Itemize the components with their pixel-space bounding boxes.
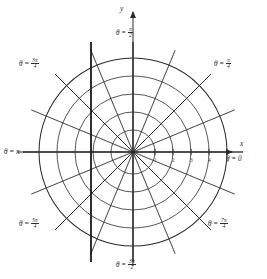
fraction-pi-2: π2 bbox=[128, 27, 133, 39]
theta-label-7pi-4-text: θ = bbox=[208, 220, 220, 228]
fraction-denominator: 4 bbox=[226, 63, 231, 70]
theta-label-pi-2-text: θ = bbox=[116, 29, 128, 37]
theta-label-pi-text: θ = bbox=[4, 148, 16, 156]
theta-label-pi-4: θ = π4 bbox=[214, 58, 231, 70]
fraction-denominator: 2 bbox=[128, 264, 136, 271]
y-axis-label: y bbox=[120, 4, 123, 13]
polar-grid-figure bbox=[0, 0, 267, 279]
theta-label-pi-value: π bbox=[16, 148, 20, 156]
theta-label-3pi-4-text: θ = bbox=[19, 60, 31, 68]
radial-tick-label: 5 bbox=[226, 157, 229, 163]
theta-label-3pi-2: θ = 3π2 bbox=[116, 259, 136, 271]
theta-label-0-value: 0 bbox=[238, 155, 242, 163]
theta-label-3pi-2-text: θ = bbox=[116, 261, 128, 269]
fraction-7pi-4: 7π4 bbox=[220, 218, 228, 230]
fraction-denominator: 4 bbox=[220, 223, 228, 230]
fraction-pi-4: π4 bbox=[226, 58, 231, 70]
fraction-3pi-2: 3π2 bbox=[128, 259, 136, 271]
fraction-3pi-4: 3π4 bbox=[31, 58, 39, 70]
radial-tick-label: 4 bbox=[208, 157, 211, 163]
theta-label-5pi-4: θ = 5π4 bbox=[19, 218, 39, 230]
fraction-denominator: 2 bbox=[128, 32, 133, 39]
theta-label-pi: θ = π bbox=[4, 149, 20, 156]
radial-tick-label: 2 bbox=[172, 157, 175, 163]
x-axis-label: x bbox=[240, 139, 243, 148]
radial-tick-label: 3 bbox=[190, 157, 193, 163]
radial-tick-label: 1 bbox=[154, 157, 157, 163]
fraction-5pi-4: 5π4 bbox=[31, 218, 39, 230]
theta-label-pi-4-text: θ = bbox=[214, 60, 226, 68]
theta-label-pi-2: θ = π2 bbox=[116, 27, 133, 39]
theta-label-5pi-4-text: θ = bbox=[19, 220, 31, 228]
fraction-denominator: 4 bbox=[31, 223, 39, 230]
theta-label-3pi-4: θ = 3π4 bbox=[19, 58, 39, 70]
fraction-denominator: 4 bbox=[31, 63, 39, 70]
theta-label-7pi-4: θ = 7π4 bbox=[208, 218, 228, 230]
